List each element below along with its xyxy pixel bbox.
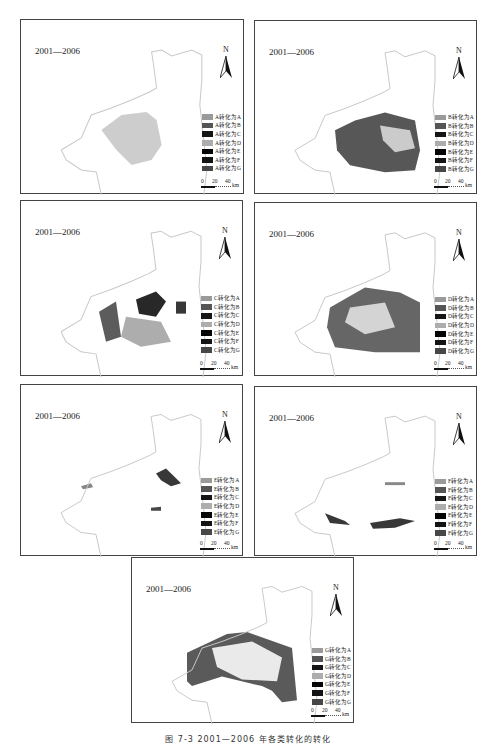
legend-label: G转化为D: [325, 672, 351, 681]
legend-item: D转化为E: [435, 330, 474, 339]
legend-label: D转化为A: [448, 295, 474, 304]
scale-tick: 20: [212, 178, 218, 184]
scale-tick: 0: [434, 360, 437, 366]
legend-item: A转化为C: [202, 130, 241, 139]
legend-label: G转化为F: [325, 689, 350, 698]
scale-tick: 20: [445, 540, 451, 546]
legend-label: E转化为D: [214, 502, 239, 511]
period-label: 2001—2006: [269, 229, 314, 239]
legend-label: D转化为C: [448, 312, 474, 321]
north-arrow: N: [451, 228, 467, 262]
boundary-outline: [295, 416, 440, 557]
north-arrow-icon: [453, 423, 465, 445]
legend-label: E转化为B: [214, 485, 239, 494]
legend-item: D转化为B: [435, 304, 474, 313]
scale-bar: 02040km: [200, 540, 236, 552]
legend-swatch: [312, 656, 323, 662]
legend-label: A转化为E: [215, 147, 240, 156]
legend-item: E转化为C: [201, 493, 239, 502]
scale-tick: 20: [322, 707, 328, 713]
scale-bar: 02040km: [434, 540, 470, 552]
legend-swatch: [435, 305, 446, 311]
scale-bar: 02040km: [434, 178, 470, 190]
legend-item: C转化为D: [201, 320, 240, 329]
legend-swatch: [435, 496, 446, 502]
map-panel-g: 2001—2006NG转化为AG转化为BG转化为CG转化为DG转化为EG转化为F…: [131, 557, 354, 723]
legend-item: D转化为G: [435, 347, 474, 356]
legend-item: E转化为F: [201, 519, 239, 528]
legend-item: G转化为C: [312, 663, 351, 672]
legend-swatch: [201, 322, 212, 328]
legend-label: A转化为D: [215, 139, 241, 148]
legend-item: F转化为F: [435, 520, 473, 529]
map-panel-a: 2001—2006NA转化为AA转化为BA转化为CA转化为DA转化为EA转化为F…: [20, 19, 244, 194]
figure-caption: 图 7-3 2001—2006 年各类转化的转化: [0, 733, 496, 744]
legend-label: A转化为A: [215, 113, 241, 122]
legend-label: F转化为G: [448, 529, 473, 538]
north-label: N: [217, 226, 233, 235]
legend-label: C转化为E: [214, 329, 239, 338]
legend-swatch: [201, 521, 212, 527]
legend-swatch: [312, 665, 323, 671]
legend-label: D转化为E: [448, 330, 473, 339]
legend-item: B转化为D: [435, 139, 474, 148]
legend-item: G转化为B: [312, 655, 351, 664]
legend-label: F转化为D: [448, 503, 473, 512]
legend-swatch: [201, 347, 212, 353]
north-arrow-icon: [220, 56, 232, 78]
legend-item: B转化为C: [435, 130, 474, 139]
legend-item: F转化为C: [435, 494, 473, 503]
legend-swatch: [202, 131, 213, 137]
scale-unit: km: [231, 544, 238, 550]
legend-item: C转化为A: [201, 294, 240, 303]
legend-swatch: [435, 115, 446, 121]
north-arrow-icon: [219, 237, 231, 259]
legend: A转化为AA转化为BA转化为CA转化为DA转化为EA转化为FA转化为G: [202, 113, 241, 173]
scale-tick: 40: [225, 178, 231, 184]
legend-swatch: [435, 479, 446, 485]
legend-item: D转化为D: [435, 321, 474, 330]
scale-tick: 0: [201, 178, 204, 184]
legend-label: G转化为C: [325, 663, 351, 672]
legend-swatch: [435, 504, 446, 510]
north-label: N: [218, 45, 234, 54]
legend-label: C转化为B: [214, 303, 239, 312]
legend-item: E转化为B: [201, 485, 239, 494]
legend-swatch: [201, 495, 212, 501]
legend-item: G转化为D: [312, 672, 351, 681]
legend-label: C转化为F: [214, 337, 239, 346]
scale-tick: 40: [458, 178, 464, 184]
land-change-patch: [385, 482, 405, 485]
scale-tick: 40: [458, 360, 464, 366]
legend-label: B转化为A: [448, 113, 474, 122]
legend-label: F转化为C: [448, 494, 473, 503]
legend: D转化为AD转化为BD转化为CD转化为DD转化为ED转化为FD转化为G: [435, 295, 474, 355]
legend-item: E转化为E: [201, 511, 239, 520]
legend-swatch: [435, 166, 446, 172]
legend-item: D转化为C: [435, 312, 474, 321]
legend-swatch: [435, 513, 446, 519]
scale-unit: km: [232, 182, 239, 188]
legend-item: F转化为D: [435, 503, 473, 512]
scale-tick: 0: [434, 540, 437, 546]
legend-swatch: [435, 522, 446, 528]
scale-bar: 02040km: [434, 360, 470, 372]
north-label: N: [451, 412, 467, 421]
legend-swatch: [201, 313, 212, 319]
legend-item: E转化为D: [201, 502, 239, 511]
land-change-patch: [325, 513, 350, 525]
legend-label: C转化为D: [214, 320, 240, 329]
north-arrow-icon: [453, 57, 465, 79]
legend-item: A转化为G: [202, 164, 241, 173]
scale-tick: 40: [224, 540, 230, 546]
legend-swatch: [312, 673, 323, 679]
map-panel-d: 2001—2006ND转化为AD转化为BD转化为CD转化为DD转化为ED转化为F…: [254, 202, 477, 376]
north-label: N: [451, 228, 467, 237]
north-label: N: [217, 410, 233, 419]
period-label: 2001—2006: [269, 47, 314, 57]
north-label: N: [328, 583, 344, 592]
legend-item: B转化为G: [435, 165, 474, 174]
legend-swatch: [435, 323, 446, 329]
legend-swatch: [435, 158, 446, 164]
legend-label: F转化为B: [448, 486, 473, 495]
